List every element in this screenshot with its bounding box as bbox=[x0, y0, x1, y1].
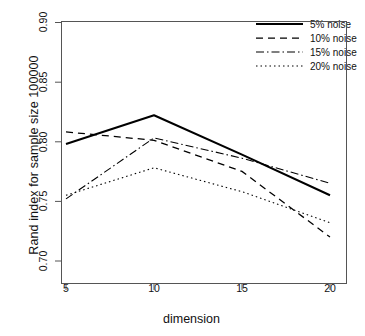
plot-frame bbox=[62, 22, 347, 284]
chart-svg bbox=[0, 0, 365, 336]
chart-root: Rand index for sample size 100000 0.90 0… bbox=[0, 0, 365, 336]
legend-swatches bbox=[256, 24, 303, 66]
y-axis-ticks bbox=[55, 23, 62, 262]
x-axis-ticks bbox=[66, 284, 330, 291]
series-line-15-percent-noise bbox=[66, 138, 330, 199]
series-line-10-percent-noise bbox=[66, 132, 330, 237]
